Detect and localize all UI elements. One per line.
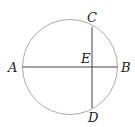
label-d: D bbox=[87, 110, 99, 125]
label-e: E bbox=[80, 51, 91, 66]
label-a: A bbox=[7, 60, 17, 75]
circle-chord-diagram: A B C D E bbox=[0, 0, 135, 127]
label-c: C bbox=[87, 10, 97, 25]
label-b: B bbox=[120, 60, 131, 75]
